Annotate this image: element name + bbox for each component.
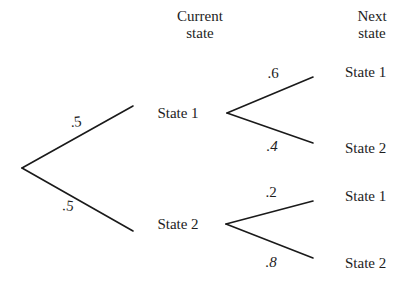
probability-root-to-state1: .5: [70, 114, 83, 130]
probability-state2-to-state1: .2: [265, 185, 276, 200]
edge-state2-to-next-state-1b: [226, 201, 313, 224]
leaf-next-state-2a: State 2: [345, 141, 386, 156]
probability-root-to-state2: .5: [62, 198, 75, 214]
column-header-current-state: Current state: [140, 8, 260, 42]
column-header-current-line1: Current: [140, 8, 260, 25]
edge-state1-to-next-state-1a: [227, 77, 313, 113]
node-current-state-2: State 2: [157, 217, 198, 232]
probability-state1-to-state1: .6: [267, 66, 278, 81]
probability-state2-to-state2: .8: [265, 255, 276, 270]
probability-tree-figure: Current state Next state State 1 State 2…: [0, 0, 411, 287]
column-header-next-line1: Next: [322, 8, 411, 25]
edge-root-to-node-1: [22, 168, 133, 231]
leaf-next-state-1a: State 1: [345, 65, 386, 80]
column-header-next-line2: state: [322, 25, 411, 42]
node-current-state-1: State 1: [157, 106, 198, 121]
leaf-next-state-2b: State 2: [345, 256, 386, 271]
column-header-current-line2: state: [140, 25, 260, 42]
leaf-next-state-1b: State 1: [345, 189, 386, 204]
column-header-next-state: Next state: [322, 8, 411, 42]
probability-state1-to-state2: .4: [266, 139, 277, 154]
